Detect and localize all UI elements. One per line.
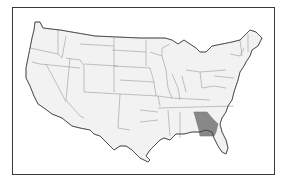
us-map xyxy=(0,0,286,181)
